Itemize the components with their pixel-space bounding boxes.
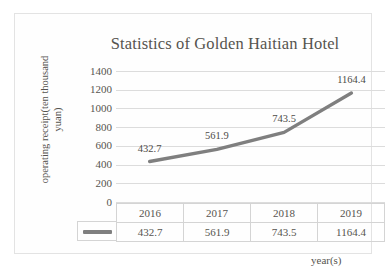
y-axis-title-line-2: yuan)	[51, 40, 64, 200]
series-line-operating-receipt	[116, 71, 385, 202]
plot-area	[116, 71, 385, 202]
table-cell-receipt-2016: 432.7	[117, 223, 184, 242]
data-table: 2016201720182019 432.7561.9743.51164.4	[116, 203, 385, 242]
table-header-cell-2018: 2018	[251, 204, 318, 223]
y-tick-label-400: 400	[70, 159, 112, 170]
y-tick-label-200: 200	[70, 178, 112, 189]
y-axis-title: operating receipt(ten thousand yuan)	[39, 40, 64, 200]
y-tick-label-1200: 1200	[70, 84, 112, 95]
table-header-cell-2019: 2019	[318, 204, 385, 223]
table-cell-receipt-2019: 1164.4	[318, 223, 385, 242]
table-header-cell-2016: 2016	[117, 204, 184, 223]
x-axis-title: year(s)	[311, 254, 342, 266]
chart-frame: Statistics of Golden Haitian Hotel opera…	[14, 13, 372, 254]
table-header-cell-2017: 2017	[184, 204, 251, 223]
table-cell-receipt-2017: 561.9	[184, 223, 251, 242]
data-point-label-2018: 743.5	[272, 113, 296, 124]
legend-cell	[77, 221, 116, 241]
table-cell-receipt-2018: 743.5	[251, 223, 318, 242]
data-point-label-2017: 561.9	[205, 130, 229, 141]
legend-line-marker-icon	[83, 230, 112, 234]
y-tick-label-1400: 1400	[70, 66, 112, 77]
table-row: 432.7561.9743.51164.4	[117, 223, 385, 242]
y-axis-title-line-1: operating receipt(ten thousand	[39, 40, 52, 200]
y-tick-label-1000: 1000	[70, 103, 112, 114]
y-axis-tick-labels: 1400120010008006004002000	[70, 64, 112, 209]
chart-title: Statistics of Golden Haitian Hotel	[85, 34, 365, 53]
data-point-label-2019: 1164.4	[337, 74, 366, 85]
y-tick-label-600: 600	[70, 140, 112, 151]
y-tick-label-0: 0	[70, 197, 112, 208]
table-header-row: 2016201720182019	[117, 204, 385, 223]
y-tick-label-800: 800	[70, 122, 112, 133]
data-point-label-2016: 432.7	[138, 143, 162, 154]
